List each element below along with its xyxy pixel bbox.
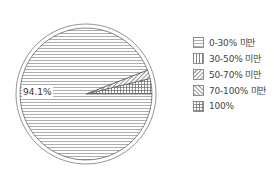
legend-item-0-30: 0-30% 미만 <box>193 34 266 50</box>
vertical-lines-pattern-icon <box>193 53 204 64</box>
grid-pattern-icon <box>193 101 204 112</box>
legend-label: 70-100% 미만 <box>209 84 266 97</box>
legend-item-30-50: 30-50% 미만 <box>193 50 266 66</box>
diagonal-lines-pattern-icon <box>193 69 204 80</box>
legend-label: 0-30% 미만 <box>209 36 255 49</box>
legend-item-100: 100% <box>193 98 266 114</box>
legend: 0-30% 미만 30-50% 미만 50-70% 미만 70-100% 미만 … <box>193 34 266 114</box>
legend-label: 30-50% 미만 <box>209 52 261 65</box>
legend-label: 100% <box>209 101 234 111</box>
horizontal-lines-pattern-icon <box>193 37 204 48</box>
legend-item-50-70: 50-70% 미만 <box>193 66 266 82</box>
legend-item-70-100: 70-100% 미만 <box>193 82 266 98</box>
slice-label-main: 94.1% <box>22 87 53 98</box>
legend-label: 50-70% 미만 <box>209 68 261 81</box>
back-diagonal-lines-pattern-icon <box>193 85 204 96</box>
